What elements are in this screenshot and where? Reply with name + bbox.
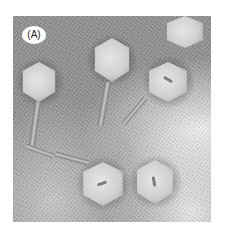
- panel-label: (A): [22, 26, 46, 44]
- micrograph-image: (A): [13, 16, 211, 222]
